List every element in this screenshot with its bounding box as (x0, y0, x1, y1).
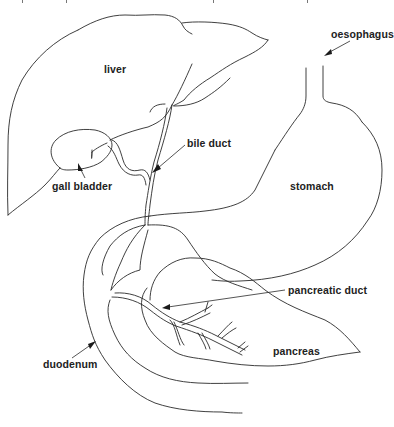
label-stomach: stomach (290, 180, 334, 192)
leader-lines (72, 41, 350, 358)
oesophagus-outline (275, 66, 362, 150)
label-pancreatic-duct: pancreatic duct (288, 284, 367, 296)
label-bile-duct: bile duct (187, 137, 231, 149)
label-duodenum: duodenum (43, 358, 97, 370)
gall-bladder-outline (51, 129, 112, 170)
label-pancreas: pancreas (273, 345, 320, 357)
duodenum-outline (83, 216, 252, 413)
label-gall-bladder: gall bladder (52, 180, 112, 192)
label-oesophagus: oesophagus (331, 28, 394, 40)
liver-outline (8, 15, 268, 215)
pancreas-outline (141, 258, 360, 366)
stomach-outline (150, 122, 382, 281)
label-liver: liver (104, 63, 126, 75)
pancreatic-duct (112, 293, 248, 355)
